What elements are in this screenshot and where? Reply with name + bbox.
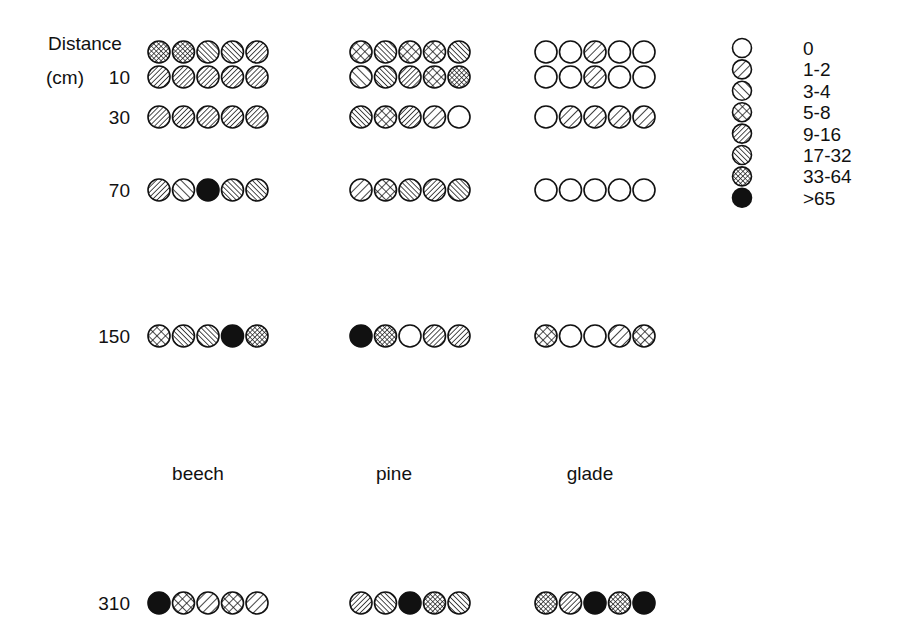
legend-label: >65: [803, 188, 835, 209]
dot-pine-150-1: [350, 325, 372, 347]
dot-beech-310-2: [173, 592, 195, 614]
dot-pine-310-2: [375, 592, 397, 614]
dot-pine-310-5: [448, 592, 470, 614]
dot-beech-30-5: [246, 106, 268, 128]
dot-pine-30-5: [448, 106, 470, 128]
dot-glade-30-2: [560, 106, 582, 128]
y-axis-label-line1: Distance: [48, 33, 122, 54]
y-axis-label-line2: (cm): [46, 67, 84, 88]
dot-glade-10-1: [535, 66, 557, 88]
dot-glade-150-5: [633, 325, 655, 347]
legend-swatch: [733, 146, 752, 165]
legend-label: 5-8: [803, 102, 830, 123]
dot-beech-10-3: [197, 66, 219, 88]
legend-label: 33-64: [803, 166, 852, 187]
dot-glade-310-1: [535, 592, 557, 614]
dot-glade-30-1: [535, 106, 557, 128]
dot-beech-top-1: [148, 41, 170, 63]
dot-beech-70-2: [173, 179, 195, 201]
dot-beech-30-3: [197, 106, 219, 128]
dot-glade-310-2: [560, 592, 582, 614]
dot-pine-10-2: [375, 66, 397, 88]
dot-pine-150-5: [448, 325, 470, 347]
legend-swatch: [733, 124, 752, 143]
legend-label: 17-32: [803, 145, 852, 166]
dot-beech-30-4: [222, 106, 244, 128]
dot-beech-70-3: [197, 179, 219, 201]
dot-pine-top-3: [399, 41, 421, 63]
dot-pine-150-2: [375, 325, 397, 347]
dot-beech-30-2: [173, 106, 195, 128]
legend-label: 9-16: [803, 124, 841, 145]
dot-pine-top-1: [350, 41, 372, 63]
dot-beech-310-1: [148, 592, 170, 614]
dot-glade-30-5: [633, 106, 655, 128]
dot-pine-30-1: [350, 106, 372, 128]
distance-label: 10: [109, 67, 130, 88]
legend-swatch: [733, 188, 752, 207]
dot-glade-10-2: [560, 66, 582, 88]
legend-label: 0: [803, 38, 814, 59]
dot-beech-70-5: [246, 179, 268, 201]
dot-glade-150-4: [609, 325, 631, 347]
legend-swatch: [733, 60, 752, 79]
dot-matrix-chart: Distance (cm) 10 30 70 150 310 beech pin…: [0, 0, 908, 643]
dot-beech-150-5: [246, 325, 268, 347]
dot-glade-70-5: [633, 179, 655, 201]
dot-beech-top-2: [173, 41, 195, 63]
dot-pine-10-1: [350, 66, 372, 88]
dot-pine-70-1: [350, 179, 372, 201]
dot-pine-310-1: [350, 592, 372, 614]
dot-pine-310-3: [399, 592, 421, 614]
dot-beech-70-4: [222, 179, 244, 201]
dot-glade-top-4: [609, 41, 631, 63]
dot-pine-70-5: [448, 179, 470, 201]
group-label-glade: glade: [567, 463, 614, 484]
dot-glade-150-3: [584, 325, 606, 347]
dot-pine-310-4: [424, 592, 446, 614]
dot-pine-10-3: [399, 66, 421, 88]
dot-pine-70-2: [375, 179, 397, 201]
dot-beech-10-4: [222, 66, 244, 88]
dot-beech-10-5: [246, 66, 268, 88]
dot-pine-10-4: [424, 66, 446, 88]
dot-pine-30-2: [375, 106, 397, 128]
dot-beech-top-4: [222, 41, 244, 63]
dot-pine-top-4: [424, 41, 446, 63]
dot-glade-70-3: [584, 179, 606, 201]
dot-beech-10-1: [148, 66, 170, 88]
dot-beech-70-1: [148, 179, 170, 201]
dot-pine-10-5: [448, 66, 470, 88]
dot-beech-10-2: [173, 66, 195, 88]
dot-beech-310-4: [222, 592, 244, 614]
dot-glade-top-5: [633, 41, 655, 63]
legend-swatch: [733, 81, 752, 100]
dot-beech-top-3: [197, 41, 219, 63]
dot-glade-top-1: [535, 41, 557, 63]
dot-glade-10-3: [584, 66, 606, 88]
distance-label: 150: [98, 326, 130, 347]
dot-pine-top-2: [375, 41, 397, 63]
dot-beech-150-1: [148, 325, 170, 347]
legend-swatch: [733, 39, 752, 58]
dot-beech-310-3: [197, 592, 219, 614]
legend-swatch: [733, 103, 752, 122]
dot-glade-top-2: [560, 41, 582, 63]
dot-glade-70-2: [560, 179, 582, 201]
dot-glade-310-3: [584, 592, 606, 614]
group-label-beech: beech: [172, 463, 224, 484]
dot-glade-70-1: [535, 179, 557, 201]
dot-glade-10-5: [633, 66, 655, 88]
dot-glade-150-1: [535, 325, 557, 347]
dot-pine-30-3: [399, 106, 421, 128]
dot-beech-150-3: [197, 325, 219, 347]
distance-label: 70: [109, 180, 130, 201]
legend-label: 1-2: [803, 59, 830, 80]
dot-beech-top-5: [246, 41, 268, 63]
distance-labels: 10 30 70 150 310: [98, 67, 130, 614]
dot-pine-150-4: [424, 325, 446, 347]
dot-pine-30-4: [424, 106, 446, 128]
dot-glade-310-5: [633, 592, 655, 614]
dot-pine-top-5: [448, 41, 470, 63]
dot-glade-30-3: [584, 106, 606, 128]
